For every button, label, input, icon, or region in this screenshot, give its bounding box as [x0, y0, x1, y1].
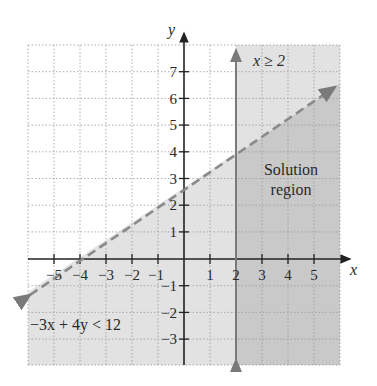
svg-text:4: 4: [170, 144, 178, 160]
svg-text:−3: −3: [161, 331, 177, 347]
solution-region-label-line2: region: [271, 181, 312, 199]
svg-text:−3: −3: [98, 267, 114, 283]
svg-text:3: 3: [258, 267, 266, 283]
svg-text:1: 1: [170, 224, 178, 240]
svg-text:−4: −4: [72, 267, 88, 283]
x-axis-label: x: [349, 261, 357, 278]
dashed-inequality-label: −3x + 4y < 12: [30, 316, 121, 334]
solution-region-label-line1: Solution: [264, 161, 318, 178]
svg-text:6: 6: [170, 91, 178, 107]
svg-text:5: 5: [170, 117, 178, 133]
svg-text:7: 7: [170, 64, 178, 80]
svg-text:2: 2: [232, 267, 240, 283]
svg-text:−1: −1: [161, 278, 177, 294]
inequality-graph: −5 −4 −3 −2 −1 1 2 3 4 5 7 6 5 4 3 2 1 −…: [0, 0, 377, 386]
svg-text:2: 2: [170, 197, 178, 213]
svg-text:−2: −2: [161, 305, 177, 321]
svg-text:4: 4: [284, 267, 292, 283]
svg-text:5: 5: [310, 267, 318, 283]
svg-text:3: 3: [170, 171, 178, 187]
svg-text:1: 1: [206, 267, 214, 283]
svg-text:−5: −5: [46, 267, 62, 283]
vertical-inequality-label: x ≥ 2: [252, 52, 285, 69]
svg-text:−2: −2: [124, 267, 140, 283]
y-axis-label: y: [166, 21, 176, 39]
